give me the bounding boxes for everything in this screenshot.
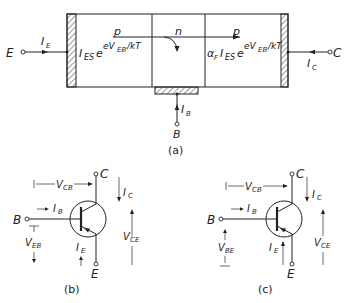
svg-text:I: I — [247, 203, 250, 214]
svg-text:e: e — [237, 47, 244, 60]
terminal-b-label-c: B — [207, 213, 215, 227]
svg-text:B: B — [58, 208, 63, 216]
svg-text:CB: CB — [252, 186, 262, 194]
figure-b-symbol: B C E V CB I B V EB I C — [13, 167, 140, 296]
terminal-e-label: E — [6, 46, 14, 60]
svg-text:EB: EB — [258, 46, 267, 54]
recombination-arrow — [164, 37, 177, 50]
terminal-e-node — [21, 50, 25, 54]
svg-text:C: C — [128, 192, 133, 200]
svg-text:I: I — [312, 189, 315, 200]
svg-text:C: C — [312, 64, 317, 72]
emitter-contact — [67, 14, 76, 87]
caption-b: (b) — [64, 283, 80, 296]
region-p-right: p — [232, 25, 240, 38]
emitter-lead-a: E I E — [6, 35, 69, 60]
figure-a-device: p n p I ES e eV EB /kT α F I ES e eV EB … — [6, 14, 342, 157]
svg-text:CB: CB — [63, 184, 73, 192]
transistor-diagram: p n p I ES e eV EB /kT α F I ES e eV EB … — [0, 0, 346, 303]
ie-arrow — [42, 50, 48, 55]
svg-text:CE: CE — [321, 242, 331, 250]
terminal-b-label-b: B — [13, 213, 21, 227]
svg-text:I: I — [181, 103, 184, 116]
emitter-current-expr: I ES e eV EB /kT — [79, 41, 142, 62]
svg-text:e: e — [96, 47, 103, 60]
terminal-c-label: C — [333, 46, 342, 60]
svg-text:C: C — [317, 194, 322, 202]
caption-c: (c) — [258, 283, 273, 296]
ib-arrow — [175, 104, 180, 110]
region-p-left: p — [113, 25, 121, 38]
svg-text:eV: eV — [244, 41, 257, 51]
svg-text:ES: ES — [225, 53, 235, 62]
svg-text:I: I — [307, 57, 310, 70]
svg-text:B: B — [186, 110, 191, 118]
terminal-e-label-b: E — [91, 267, 99, 281]
terminal-e-label-c: E — [287, 267, 295, 281]
svg-text:E: E — [46, 42, 51, 50]
figure-c-symbol: B C E V CB I B V BE I E — [207, 167, 331, 296]
svg-text:/kT: /kT — [126, 41, 142, 51]
svg-text:F: F — [214, 54, 219, 62]
svg-text:I: I — [41, 35, 44, 48]
svg-text:EB: EB — [32, 242, 41, 250]
terminal-c-label-c: C — [296, 167, 305, 181]
svg-text:B: B — [252, 208, 257, 216]
emitter-arrow-b — [84, 228, 90, 233]
svg-text:BE: BE — [225, 247, 235, 255]
base-lead-a: I B B — [173, 93, 191, 142]
terminal-b-label: B — [173, 128, 181, 141]
recombination-arrowhead — [175, 46, 180, 52]
terminal-c-node — [328, 50, 332, 54]
svg-text:I: I — [79, 47, 82, 60]
ic-arrow — [309, 50, 315, 55]
terminal-c-label-b: C — [100, 167, 109, 181]
svg-text:I: I — [220, 47, 223, 60]
svg-text:/kT: /kT — [267, 41, 283, 51]
svg-text:EB: EB — [117, 46, 126, 54]
region-n: n — [175, 25, 182, 38]
svg-text:E: E — [274, 247, 279, 255]
svg-text:E: E — [81, 247, 86, 255]
collector-lead-a: C I C — [287, 46, 343, 72]
terminal-b-node — [175, 122, 179, 126]
collector-contact — [281, 14, 288, 87]
svg-text:ES: ES — [84, 53, 94, 62]
svg-text:I: I — [53, 203, 56, 214]
svg-text:eV: eV — [103, 41, 116, 51]
svg-text:I: I — [76, 242, 79, 253]
svg-text:I: I — [123, 187, 126, 198]
caption-a: (a) — [168, 144, 183, 157]
collector-current-expr: α F I ES e eV EB /kT — [207, 41, 283, 62]
svg-text:CE: CE — [130, 236, 140, 244]
emitter-arrow-c — [280, 228, 286, 233]
svg-text:I: I — [269, 242, 272, 253]
